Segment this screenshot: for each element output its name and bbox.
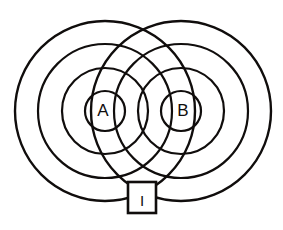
interference-diagram: A B I: [0, 0, 283, 230]
wave-diagram-svg: A B I: [0, 0, 283, 230]
detector-label: I: [140, 192, 144, 209]
source-a-label: A: [97, 101, 109, 120]
source-b-label: B: [177, 101, 188, 120]
